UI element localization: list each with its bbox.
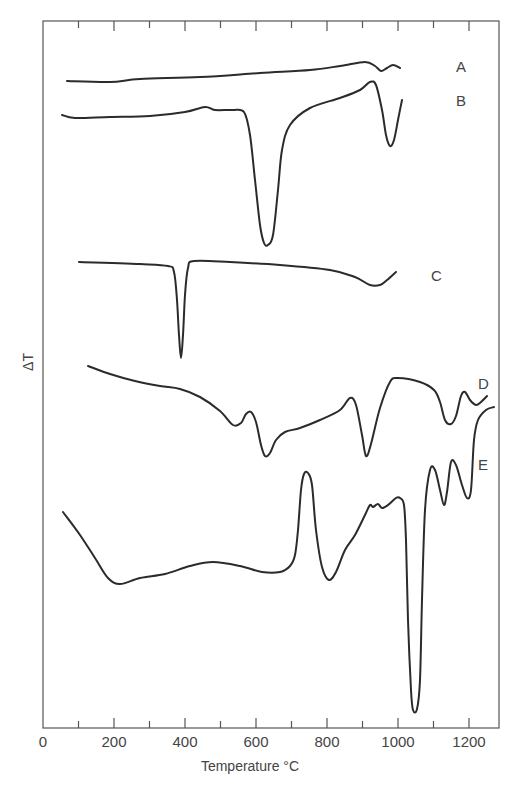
curve-label-e: E: [478, 456, 488, 473]
x-tick-label: 1000: [381, 733, 414, 750]
curve-d: [88, 366, 487, 456]
x-tick-label: 600: [243, 733, 268, 750]
curve-label-b: B: [456, 92, 466, 109]
x-tick-label: 400: [172, 733, 197, 750]
curve-a: [67, 62, 400, 82]
curve-labels: ABCDE: [431, 58, 489, 473]
x-tick-label: 200: [101, 733, 126, 750]
x-tick-label: 800: [314, 733, 339, 750]
curve-e: [63, 407, 494, 713]
curve-label-d: D: [478, 375, 489, 392]
dta-chart: 020040060080010001200 ABCDE Temperature …: [0, 0, 517, 785]
curve-c: [79, 261, 396, 358]
x-tick-label: 0: [39, 733, 47, 750]
curves: [62, 62, 494, 713]
x-axis-label: Temperature °C: [201, 758, 299, 774]
curve-label-c: C: [431, 267, 442, 284]
curve-b: [62, 81, 402, 245]
x-tick-label: 1200: [452, 733, 485, 750]
x-axis-ticks: [79, 21, 470, 728]
x-axis-tick-labels: 020040060080010001200: [39, 733, 486, 750]
y-axis-label: ΔT: [20, 353, 36, 371]
curve-label-a: A: [456, 58, 466, 75]
